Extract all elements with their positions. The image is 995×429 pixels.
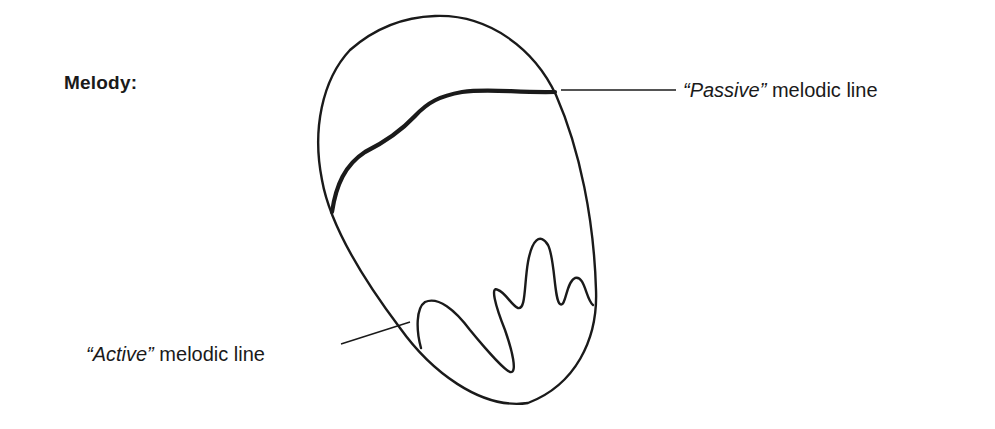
active-label-quoted: “Active” [86,343,154,365]
passive-melodic-line [332,90,555,212]
active-melodic-line [418,239,593,372]
active-pointer-line [341,322,410,344]
passive-melodic-line-label: “Passive” melodic line [683,80,878,100]
melody-diagram: Melody: “Passive” melodic line “Active” … [0,0,995,429]
passive-label-quoted: “Passive” [683,79,766,101]
active-melodic-line-label: “Active” melodic line [86,344,265,364]
active-label-rest: melodic line [154,343,265,365]
passive-label-rest: melodic line [766,79,877,101]
egg-outline [318,16,596,404]
